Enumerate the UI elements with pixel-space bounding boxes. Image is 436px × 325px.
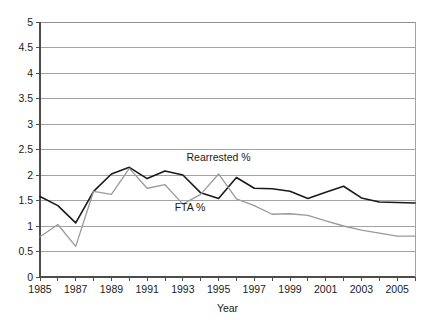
fta-label: FTA % xyxy=(175,201,206,213)
x-tick-label-1995: 1995 xyxy=(207,283,231,295)
x-tick-label-1989: 1989 xyxy=(100,283,124,295)
y-tick-label-5: 5 xyxy=(27,16,33,28)
x-tick-label-1999: 1999 xyxy=(278,283,302,295)
y-tick-label-4: 4 xyxy=(27,67,33,79)
x-tick-label-2003: 2003 xyxy=(350,283,374,295)
y-tick-label-0.5: 0.5 xyxy=(18,245,33,257)
line-chart: 00.511.522.533.544.551985198719891991199… xyxy=(0,0,436,325)
x-axis-title: Year xyxy=(217,302,239,314)
series-line-rearrested xyxy=(40,167,415,223)
x-tick-label-1987: 1987 xyxy=(64,283,88,295)
x-tick-label-1985: 1985 xyxy=(28,283,52,295)
rearrested-label: Rearrested % xyxy=(186,151,250,163)
y-tick-label-3.5: 3.5 xyxy=(18,92,33,104)
y-tick-label-3: 3 xyxy=(27,118,33,130)
x-tick-label-1997: 1997 xyxy=(243,283,267,295)
y-tick-label-2.5: 2.5 xyxy=(18,143,33,155)
series-line-fta xyxy=(40,168,415,246)
x-tick-label-2005: 2005 xyxy=(385,283,409,295)
x-tick-label-2001: 2001 xyxy=(314,283,338,295)
y-tick-label-1: 1 xyxy=(27,220,33,232)
y-tick-label-0: 0 xyxy=(27,271,33,283)
x-tick-label-1993: 1993 xyxy=(171,283,195,295)
chart-container: 00.511.522.533.544.551985198719891991199… xyxy=(0,0,436,325)
y-tick-label-4.5: 4.5 xyxy=(18,41,33,53)
y-tick-label-1.5: 1.5 xyxy=(18,194,33,206)
y-tick-label-2: 2 xyxy=(27,169,33,181)
x-tick-label-1991: 1991 xyxy=(135,283,159,295)
